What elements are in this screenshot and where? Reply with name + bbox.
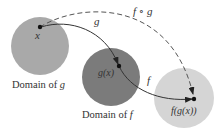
fog-arrow-label: f ∘ g xyxy=(133,5,153,17)
gx-label: g(x) xyxy=(98,67,115,79)
domain-f-label: Domain of f xyxy=(82,109,135,120)
fgx-label: f(g(x)) xyxy=(171,105,197,117)
domain-g-label-prefix: Domain of xyxy=(12,79,60,90)
domain-g-label: Domain of g xyxy=(12,79,65,90)
f-arrow-label: f xyxy=(147,74,152,86)
g-arrow-label: g xyxy=(94,15,100,27)
fgx-point xyxy=(192,97,196,101)
x-label: x xyxy=(34,29,40,41)
gx-point xyxy=(117,64,121,68)
domain-f-label-var: f xyxy=(130,109,135,120)
domain-g-label-var: g xyxy=(60,79,65,90)
domain-f-label-prefix: Domain of xyxy=(82,109,130,120)
composition-diagram: x g(x) f(g(x)) g f f ∘ g Domain of g Dom… xyxy=(0,0,214,136)
